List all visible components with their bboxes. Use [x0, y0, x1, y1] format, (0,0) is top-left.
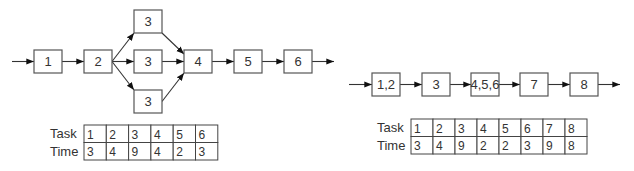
task-time: 4 [154, 145, 161, 159]
dependency-arrow [162, 33, 184, 54]
task-row-label: Task [50, 126, 77, 141]
task-row-label: Task [377, 120, 404, 135]
task-number: 3 [458, 122, 465, 136]
task-node: 4,5,6 [471, 73, 500, 96]
task-node: 8 [570, 73, 598, 96]
time-row-label: Time [50, 144, 78, 159]
task-time: 9 [458, 139, 465, 153]
task-label: 8 [580, 77, 587, 92]
task-label: 5 [244, 54, 251, 69]
time-row-label: Time [377, 138, 405, 153]
task-time: 9 [546, 139, 553, 153]
task-node: 4 [184, 50, 212, 73]
task-node: 1 [34, 50, 62, 73]
task-number: 6 [199, 128, 206, 142]
task-node: 3 [134, 90, 162, 113]
task-label: 4 [194, 54, 201, 69]
task-label: 3 [144, 54, 151, 69]
task-label: 3 [432, 77, 439, 92]
task-label: 1 [44, 54, 51, 69]
task-number: 8 [568, 122, 575, 136]
task-time: 3 [87, 145, 94, 159]
task-node: 6 [284, 50, 312, 73]
task-time: 2 [176, 145, 183, 159]
task-time: 3 [524, 139, 531, 153]
task-node: 1,2 [372, 73, 400, 96]
task-number: 1 [414, 122, 421, 136]
task-label: 6 [294, 54, 301, 69]
task-label: 3 [144, 14, 151, 29]
task-number: 1 [87, 128, 94, 142]
task-number: 4 [154, 128, 161, 142]
task-label: 2 [94, 54, 101, 69]
task-number: 2 [436, 122, 443, 136]
task-time: 2 [480, 139, 487, 153]
task-node: 2 [84, 50, 112, 73]
task-number: 2 [109, 128, 116, 142]
task-number: 3 [132, 128, 139, 142]
task-time: 3 [414, 139, 421, 153]
task-label: 3 [144, 94, 151, 109]
task-label: 4,5,6 [471, 77, 500, 92]
task-time: 3 [199, 145, 206, 159]
diagram-canvas: 123334561,234,5,678 TaskTime123456349423… [0, 0, 634, 171]
task-label: 1,2 [377, 77, 395, 92]
task-time-table: TaskTime123456349423 [50, 125, 218, 160]
task-time: 8 [568, 139, 575, 153]
task-node: 3 [422, 73, 450, 96]
task-label: 7 [530, 77, 537, 92]
task-time: 2 [502, 139, 509, 153]
task-number: 6 [524, 122, 531, 136]
task-node: 7 [520, 73, 548, 96]
dependency-arrow [112, 33, 134, 62]
task-node: 3 [134, 50, 162, 73]
task-time: 9 [132, 145, 139, 159]
task-number: 4 [480, 122, 487, 136]
dependency-arrow [162, 73, 184, 102]
task-time-table: TaskTime1234567834922398 [377, 119, 587, 154]
task-number: 5 [176, 128, 183, 142]
task-node: 5 [234, 50, 262, 73]
task-time: 4 [109, 145, 116, 159]
task-number: 5 [502, 122, 509, 136]
task-time: 4 [436, 139, 443, 153]
dependency-arrow [112, 62, 134, 91]
task-number: 7 [546, 122, 553, 136]
task-node: 3 [134, 10, 162, 33]
